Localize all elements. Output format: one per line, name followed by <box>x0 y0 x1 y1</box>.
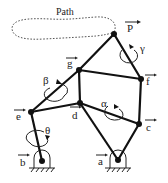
path-label: Path <box>56 6 74 17</box>
svg-text:P: P <box>127 22 133 34</box>
angle-label-theta: θ <box>45 124 50 136</box>
svg-text:a: a <box>98 155 103 167</box>
linkage-diagram: Path <box>0 0 168 183</box>
joint-P <box>111 31 117 37</box>
link-g-f <box>79 70 141 79</box>
joint-d <box>77 100 83 106</box>
label-P: P <box>125 20 141 34</box>
svg-text:f: f <box>146 75 150 87</box>
svg-text:g: g <box>67 57 73 69</box>
joint-g <box>76 67 82 73</box>
svg-text:d: d <box>72 109 78 121</box>
joint-e <box>28 109 34 115</box>
angle-label-beta: β <box>43 74 49 86</box>
path-curve <box>12 17 115 39</box>
link-P-f <box>114 34 141 79</box>
label-f: f <box>145 74 157 88</box>
link-f-c <box>139 79 141 124</box>
link-e-g <box>31 70 79 112</box>
joint-b <box>39 158 45 164</box>
label-b: b <box>18 154 30 169</box>
label-e: e <box>14 109 26 123</box>
angle-label-gamma: γ <box>139 42 145 54</box>
svg-text:c: c <box>146 121 151 133</box>
label-d: d <box>70 106 82 122</box>
svg-text:b: b <box>20 156 26 168</box>
joint-c <box>136 121 142 127</box>
joint-f <box>138 76 144 82</box>
angle-label-alpha: α <box>101 97 107 109</box>
link-b-e <box>31 112 42 161</box>
link-d-c <box>80 103 139 124</box>
link-c-a <box>118 124 139 160</box>
label-a: a <box>96 154 108 168</box>
joint-a <box>115 157 121 163</box>
svg-text:e: e <box>16 110 21 122</box>
link-g-P <box>79 34 114 70</box>
link-d-a <box>80 103 118 160</box>
link-g-d <box>79 70 80 103</box>
label-g: g <box>66 57 78 70</box>
label-c: c <box>145 119 157 134</box>
